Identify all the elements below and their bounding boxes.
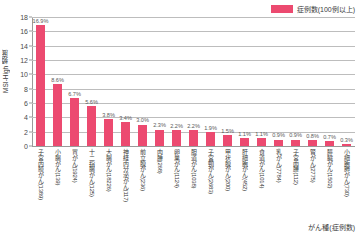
bar [121,122,130,146]
bar-column: 0.8% [304,17,321,146]
bar-column: 1.9% [202,17,219,146]
bar [240,138,249,146]
x-tick-label: 膵臓がん(1502) [327,149,333,221]
bar-series: 16.9%8.6%6.7%5.6%3.8%3.4%3.0%2.3%2.2%2.2… [32,17,355,146]
bar-column: 0.3% [338,17,355,146]
x-tick-label: 食道がん(1014) [259,149,265,221]
x-tick-label: 小腸がん(139) [55,149,61,221]
x-category-cell: 乳がん(7784) [270,149,287,221]
bar [53,84,62,146]
bar-column: 6.7% [66,17,83,146]
x-category-cell: 卵巣がん(1124) [168,149,185,221]
bar [342,144,351,146]
bar-column: 3.8% [100,17,117,146]
x-axis-line [32,146,355,147]
x-tick-label: 神経内分泌がん(117) [123,149,129,221]
bar [138,125,147,147]
bar-value-label: 16.9% [33,19,49,25]
bar-column: 1.5% [219,17,236,146]
bar [257,138,266,146]
x-tick-label: 卵巣がん(1124) [174,149,180,221]
plot-area: 024681012141618 16.9%8.6%6.7%5.6%3.8%3.4… [32,17,355,147]
bar-chart-figure: 症例数(100例以上) MSI-High 頻度 024681012141618 … [0,0,359,235]
x-category-cell: 神経内分泌がん(117) [117,149,134,221]
bar-value-label: 3.8% [102,113,115,119]
bar-value-label: 6.7% [68,92,81,98]
x-category-cell: 小細胞肺がん(730) [338,149,355,221]
bar-value-label: 0.3% [340,138,353,144]
bar [172,130,181,146]
x-category-cell: 大腸がん(18226) [100,149,117,221]
x-category-cell: 肉腫(268) [151,149,168,221]
x-category-cell: 腎がん(2775) [304,149,321,221]
bar-value-label: 1.9% [204,126,217,132]
bar-value-label: 0.9% [272,133,285,139]
bar-value-label: 8.6% [51,78,64,84]
x-category-cell: 子宮内膜がん(1389) [32,149,49,221]
bar-column: 2.2% [168,17,185,146]
x-tick-label: 甲状腺がん(200) [225,149,231,221]
x-category-cell: 前立腺がん(236) [134,149,151,221]
bar-value-label: 2.3% [153,123,166,129]
bar-column: 0.9% [270,17,287,146]
bar [155,130,164,146]
x-tick-label: 胆道がん(1038) [191,149,197,221]
bar-column: 16.9% [32,17,49,146]
bar-column: 5.6% [83,17,100,146]
bar [206,132,215,146]
bar [223,135,232,146]
bar-column: 3.0% [134,17,151,146]
bar-value-label: 0.7% [323,135,336,141]
x-category-cell: 胃がん(1924) [66,149,83,221]
bar-value-label: 1.1% [255,132,268,138]
bar-value-label: 3.4% [119,116,132,122]
x-axis-title: がん種(症例数) [308,222,355,232]
x-tick-label: 腎がん(2775) [310,149,316,221]
x-axis-category-labels: 子宮内膜がん(1389)小腸がん(139)胃がん(1924)十二指腸がん(125… [32,149,355,221]
bar-value-label: 2.2% [170,124,183,130]
x-category-cell: 膵臓がん(1502) [321,149,338,221]
bar [274,140,283,146]
x-category-cell: 子宮肉腫(112) [287,149,304,221]
x-tick-label: 肉腫(268) [157,149,163,221]
bar-value-label: 0.9% [289,133,302,139]
x-category-cell: 食道がん(1014) [253,149,270,221]
bar-value-label: 3.0% [136,118,149,124]
bar [291,140,300,146]
bar-column: 0.9% [287,17,304,146]
bar [36,25,45,146]
bar-value-label: 5.6% [85,100,98,106]
bar [308,140,317,146]
bar [87,106,96,146]
x-tick-label: 子宮肉腫(112) [293,149,299,221]
bar-value-label: 1.5% [221,129,234,135]
legend-label: 症例数(100例以上) [297,4,355,14]
x-category-cell: 十二指腸がん(125) [83,149,100,221]
bar [104,119,113,146]
bar-column: 8.6% [49,17,66,146]
bar [70,98,79,146]
x-category-cell: 甲状腺がん(200) [219,149,236,221]
bar [189,130,198,146]
bar [325,141,334,146]
x-category-cell: 小腸がん(139) [49,149,66,221]
bar-column: 2.2% [185,17,202,146]
bar-column: 2.3% [151,17,168,146]
x-tick-label: 子宮内膜がん(1389) [38,149,44,221]
x-tick-label: 十二指腸がん(125) [89,149,95,221]
x-tick-label: 小細胞肺がん(730) [344,149,350,221]
x-tick-label: 子宮頸がん(2683) [208,149,214,221]
bar-value-label: 1.1% [238,132,251,138]
legend-color-swatch [271,5,293,13]
y-axis-title: MSI-High 頻度 [1,50,11,93]
x-tick-label: 前立腺がん(236) [140,149,146,221]
x-tick-label: 大腸がん(18226) [106,149,112,221]
chart-legend: 症例数(100例以上) [271,4,355,14]
bar-value-label: 2.2% [187,124,200,130]
bar-column: 1.1% [253,17,270,146]
x-category-cell: 肝細胞がん(452) [236,149,253,221]
bar-column: 1.1% [236,17,253,146]
x-tick-label: 乳がん(7784) [276,149,282,221]
x-tick-label: 胃がん(1924) [72,149,78,221]
x-tick-label: 肝細胞がん(452) [242,149,248,221]
